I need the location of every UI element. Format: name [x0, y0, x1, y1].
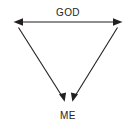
diagram-svg: GOD ME [0, 0, 135, 128]
node-label-me: ME [60, 110, 76, 121]
diagram-canvas: GOD ME [0, 0, 135, 128]
node-label-god: GOD [56, 7, 80, 18]
